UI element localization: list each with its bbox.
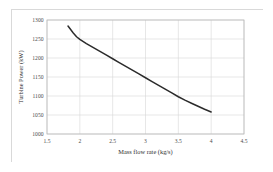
chart-figure: 1000105011001150120012501300 1.522.533.5…: [11, 9, 263, 162]
x-axis-tick-label: 3.5: [175, 138, 182, 144]
x-axis-tick-label: 4: [210, 138, 213, 144]
y-axis-tick-label: 1050: [32, 112, 43, 118]
x-axis-tick-label: 3: [144, 138, 147, 144]
x-axis-tick-label: 2: [78, 138, 81, 144]
y-axis-tick-label: 1150: [33, 74, 44, 80]
y-axis-tick-label: 1250: [32, 36, 43, 42]
y-axis-tick-label: 1000: [32, 131, 43, 137]
y-axis-tick-label: 1100: [33, 93, 44, 99]
plot-area-wrapper: 1000105011001150120012501300 1.522.533.5…: [12, 10, 264, 163]
x-axis-tick-label: 4.5: [241, 138, 248, 144]
y-axis-title: Turbine Power (kW): [17, 50, 25, 103]
x-axis-tick-label: 2.5: [109, 138, 116, 144]
y-axis-tick-label: 1200: [32, 55, 43, 61]
turbine-power-line-chart: 1000105011001150120012501300 1.522.533.5…: [12, 10, 264, 163]
x-axis-tick-label: 1.5: [44, 138, 51, 144]
x-axis-title: Mass flow rate (kg/s): [118, 148, 173, 156]
y-axis-tick-label: 1300: [32, 17, 43, 23]
